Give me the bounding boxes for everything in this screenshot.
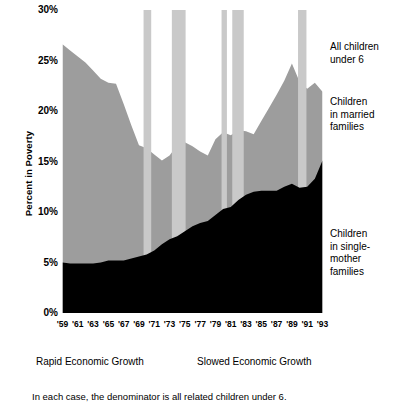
x-tick-label: '91 [301,319,312,329]
legend-label-single-mother-families: Children in single- mother families [330,228,370,278]
x-tick-label: '77 [194,319,205,329]
legend-label-all-children: All children under 6 [330,41,379,66]
x-tick-label: '93 [317,319,328,329]
x-tick-label: '69 [133,319,144,329]
x-tick-label: '73 [164,319,175,329]
x-tick-label: '61 [72,319,83,329]
x-tick-label: '81 [225,319,236,329]
legend-label-married-families: Children in married families [330,96,374,134]
x-tick-label: '87 [271,319,282,329]
x-tick-label: '67 [118,319,129,329]
x-tick-label: '75 [179,319,190,329]
x-tick-label: '63 [87,319,98,329]
x-tick-label: '59 [57,319,68,329]
x-tick-label: '65 [103,319,114,329]
x-tick-label: '71 [149,319,160,329]
era-caption-rapid-growth: Rapid Economic Growth [36,356,144,367]
x-tick-label: '83 [240,319,251,329]
era-caption-slowed-growth: Slowed Economic Growth [197,356,312,367]
chart-footnote: In each case, the denominator is all rel… [32,391,287,402]
x-tick-label: '85 [256,319,267,329]
x-tick-label: '79 [210,319,221,329]
x-axis-tick-labels: '59'61'63'65'67'69'71'73'75'77'79'81'83'… [62,319,324,333]
poverty-area-chart: Percent in Poverty 30%25%20%15%10%5%0% '… [0,0,405,411]
x-tick-label: '89 [286,319,297,329]
